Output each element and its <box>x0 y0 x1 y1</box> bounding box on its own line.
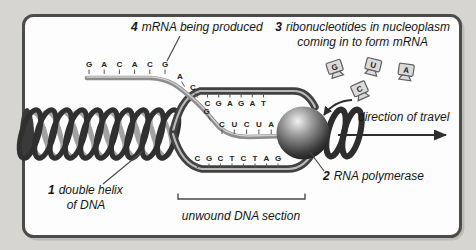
label-unwound: unwound DNA section <box>182 209 301 223</box>
label-ribonucleotides-line2: coming in to form mRNA <box>297 35 428 49</box>
label-double-helix-line2: of DNA <box>67 198 106 212</box>
base-letter: C <box>195 154 201 163</box>
base-letter: G <box>203 107 209 116</box>
base-letter: A <box>177 72 183 81</box>
label-mrna: 4mRNA being produced <box>130 20 263 34</box>
base-letter: C <box>219 120 225 129</box>
base-letter: C <box>244 120 250 129</box>
base-letter: A <box>249 99 255 108</box>
base-letter: T <box>253 154 258 163</box>
base-letter: U <box>231 120 237 129</box>
base-letter: C <box>190 83 196 92</box>
base-letter: G <box>162 60 168 69</box>
diagram-canvas: GACACG A C CGAGAT G CUCUA CGCTCTAG G U A <box>0 0 476 250</box>
base-letter: C <box>117 60 123 69</box>
rna-polymerase <box>277 107 330 160</box>
transcription-diagram: GACACG A C CGAGAT G CUCUA CGCTCTAG G U A <box>0 0 476 250</box>
label-ribonucleotides-line1: 3ribonucleotides in nucleoplasm <box>275 20 450 34</box>
base-letter: A <box>132 60 138 69</box>
label-direction: direction of travel <box>358 110 450 124</box>
base-letter: C <box>147 60 153 69</box>
base-letter: G <box>238 99 244 108</box>
base-letter: T <box>261 99 266 108</box>
base-letter: U <box>256 120 262 129</box>
base-letter: C <box>218 154 224 163</box>
base-letter: G <box>86 60 92 69</box>
base-letter: A <box>268 120 274 129</box>
label-polymerase: 2RNA polymerase <box>322 169 424 183</box>
base-letter: G <box>206 154 212 163</box>
base-letter: C <box>241 154 247 163</box>
base-letter: A <box>227 99 233 108</box>
base-letter: G <box>216 99 222 108</box>
base-letter: A <box>101 60 107 69</box>
base-letter: A <box>264 154 270 163</box>
base-letter: G <box>275 154 281 163</box>
label-double-helix-line1: 1double helix <box>48 183 124 197</box>
base-letter: T <box>230 154 235 163</box>
